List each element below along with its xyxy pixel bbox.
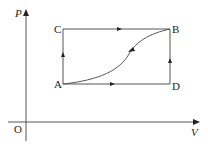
origin-label: O xyxy=(14,123,22,135)
path-d-to-b xyxy=(168,29,172,84)
arrow-up-icon xyxy=(168,58,172,63)
p-axis xyxy=(23,9,29,141)
point-a-label: A xyxy=(54,78,62,90)
pv-diagram: P V O C B A D xyxy=(0,0,208,151)
point-c-label: C xyxy=(54,23,61,35)
v-axis-arrow-icon xyxy=(193,119,200,125)
v-axis-label: V xyxy=(191,126,199,138)
path-a-to-c xyxy=(61,29,65,84)
path-a-to-d xyxy=(63,82,170,86)
path-b-to-a-curve xyxy=(63,29,170,84)
point-d-label: D xyxy=(172,80,180,92)
p-axis-label: P xyxy=(14,7,22,19)
point-b-label: B xyxy=(172,23,179,35)
arrow-up-icon xyxy=(61,52,65,57)
arrow-right-icon xyxy=(117,27,122,31)
v-axis xyxy=(8,119,200,125)
p-axis-arrow-icon xyxy=(23,9,29,16)
path-c-to-b xyxy=(63,27,170,31)
arrow-right-icon xyxy=(110,82,115,86)
